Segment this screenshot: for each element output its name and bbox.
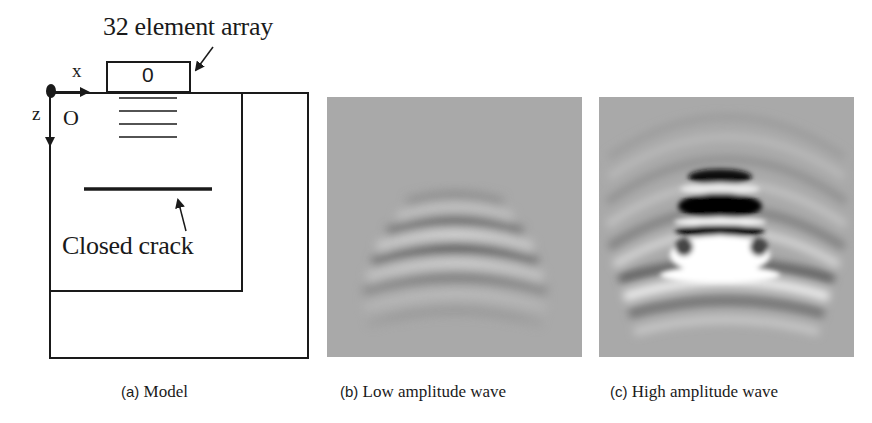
caption-c-label: (c) <box>610 383 628 400</box>
outer-specimen-boundary <box>50 93 308 358</box>
array-symbol: 0 <box>142 63 154 87</box>
low-amplitude-wave-field <box>327 97 582 357</box>
high-amplitude-wave-field <box>599 97 854 357</box>
crack-label: Closed crack <box>62 231 193 261</box>
caption-a-text: Model <box>144 382 188 401</box>
axis-z-label: z <box>32 103 40 125</box>
caption-b-label: (b) <box>340 383 358 400</box>
array-pointer-arrow <box>196 47 213 70</box>
incident-wavefront-lines <box>119 98 177 137</box>
crack-pointer-arrow <box>178 200 186 231</box>
caption-b: (b) Low amplitude wave <box>340 382 506 402</box>
caption-c-text: High amplitude wave <box>632 382 778 401</box>
axis-x-label: x <box>72 60 82 82</box>
caption-a: (a) Model <box>121 382 188 402</box>
caption-c: (c) High amplitude wave <box>610 382 778 402</box>
caption-a-label: (a) <box>121 383 139 400</box>
origin-dot <box>46 84 56 98</box>
origin-label: O <box>63 105 79 131</box>
caption-b-text: Low amplitude wave <box>363 382 507 401</box>
array-label: 32 element array <box>103 12 273 42</box>
model-diagram <box>0 0 330 370</box>
